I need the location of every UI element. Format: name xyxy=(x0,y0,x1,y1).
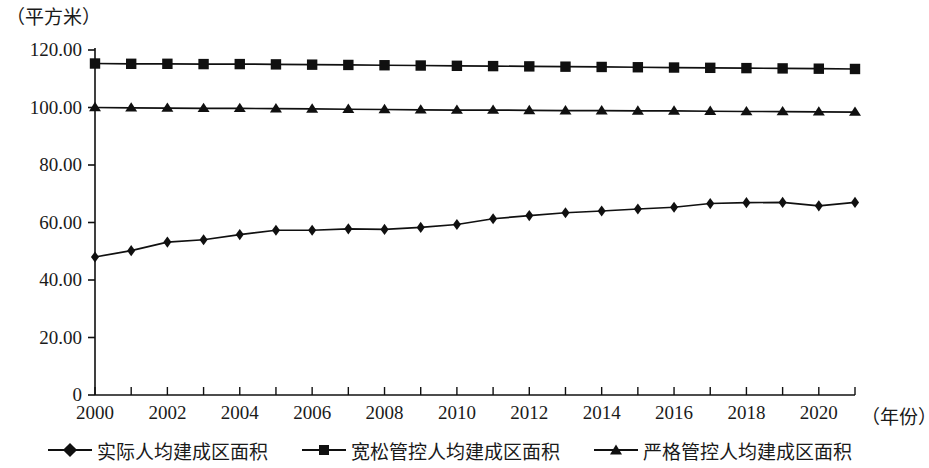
marker-triangle xyxy=(451,104,463,113)
marker-diamond xyxy=(851,197,859,208)
marker-diamond xyxy=(91,251,99,262)
marker-diamond xyxy=(272,225,280,236)
marker-triangle xyxy=(704,106,716,115)
series-line-0 xyxy=(95,202,855,257)
marker-diamond xyxy=(380,224,388,235)
marker-square xyxy=(343,60,353,70)
y-axis-tick-label: 40.00 xyxy=(0,269,82,291)
marker-triangle xyxy=(379,104,391,113)
series-line-1 xyxy=(95,64,855,69)
y-axis-tick-label: 20.00 xyxy=(0,327,82,349)
marker-square xyxy=(524,61,534,71)
x-axis-tick-label: 2000 xyxy=(76,402,114,424)
marker-square xyxy=(271,59,281,69)
marker-diamond xyxy=(200,234,208,245)
y-axis-tick-label: 80.00 xyxy=(0,154,82,176)
marker-diamond xyxy=(815,200,823,211)
marker-diamond xyxy=(453,219,461,230)
marker-triangle xyxy=(487,104,499,113)
marker-triangle xyxy=(161,102,173,111)
marker-diamond xyxy=(742,197,750,208)
x-axis-tick-label: 2006 xyxy=(293,402,331,424)
marker-triangle xyxy=(559,105,571,114)
marker-square xyxy=(307,59,317,69)
marker-square xyxy=(488,61,498,71)
marker-triangle xyxy=(306,103,318,112)
marker-square xyxy=(416,60,426,70)
marker-triangle xyxy=(342,104,354,113)
series-layer xyxy=(89,58,861,262)
marker-triangle xyxy=(668,105,680,114)
marker-diamond xyxy=(598,205,606,216)
marker-square xyxy=(235,59,245,69)
marker-triangle xyxy=(740,106,752,115)
legend-marker-diamond-icon xyxy=(48,442,92,458)
legend-marker-square-icon xyxy=(302,442,346,458)
marker-square xyxy=(814,63,824,73)
marker-diamond xyxy=(489,213,497,224)
marker-triangle xyxy=(415,104,427,113)
y-axis-tick-label: 100.00 xyxy=(0,97,82,119)
legend-marker-triangle-icon xyxy=(594,442,638,458)
x-axis-tick-label: 2002 xyxy=(148,402,186,424)
marker-triangle xyxy=(813,106,825,115)
y-axis-tick-label: 60.00 xyxy=(0,212,82,234)
legend-marker-glyph xyxy=(319,445,329,455)
legend-marker-glyph xyxy=(63,443,77,457)
marker-square xyxy=(705,63,715,73)
marker-diamond xyxy=(779,197,787,208)
y-axis-tick-label: 0 xyxy=(0,384,82,406)
marker-square xyxy=(596,62,606,72)
legend-item[interactable]: 实际人均建成区面积 xyxy=(48,437,268,464)
marker-triangle xyxy=(523,105,535,114)
x-axis-tick-label: 2020 xyxy=(800,402,838,424)
legend-item-label: 严格管控人均建成区面积 xyxy=(643,437,852,464)
legend-item[interactable]: 宽松管控人均建成区面积 xyxy=(302,437,560,464)
legend-marker-glyph xyxy=(610,445,622,455)
plot-area xyxy=(0,0,900,432)
x-axis-tick-label: 2010 xyxy=(438,402,476,424)
marker-square xyxy=(669,62,679,72)
x-axis-tick-label: 2008 xyxy=(366,402,404,424)
marker-triangle xyxy=(849,106,861,115)
marker-diamond xyxy=(670,202,678,213)
x-axis-name-label: （年份） xyxy=(861,402,929,429)
marker-diamond xyxy=(308,225,316,236)
marker-triangle xyxy=(198,103,210,112)
marker-diamond xyxy=(163,236,171,247)
marker-square xyxy=(850,64,860,74)
y-axis-tick-label: 120.00 xyxy=(0,39,82,61)
marker-diamond xyxy=(236,229,244,240)
marker-triangle xyxy=(632,105,644,114)
legend-item-label: 实际人均建成区面积 xyxy=(97,437,268,464)
marker-square xyxy=(741,63,751,73)
marker-diamond xyxy=(417,222,425,233)
x-axis-tick-label: 2014 xyxy=(583,402,621,424)
marker-square xyxy=(633,62,643,72)
marker-diamond xyxy=(525,210,533,221)
marker-square xyxy=(126,59,136,69)
x-axis-tick-label: 2004 xyxy=(221,402,259,424)
legend-item[interactable]: 严格管控人均建成区面积 xyxy=(594,437,852,464)
marker-square xyxy=(379,60,389,70)
marker-square xyxy=(198,59,208,69)
marker-triangle xyxy=(234,103,246,112)
x-axis-tick-label: 2012 xyxy=(510,402,548,424)
marker-square xyxy=(560,61,570,71)
marker-diamond xyxy=(344,223,352,234)
marker-diamond xyxy=(634,203,642,214)
marker-square xyxy=(777,63,787,73)
chart-legend: 实际人均建成区面积宽松管控人均建成区面积严格管控人均建成区面积 xyxy=(0,432,900,468)
x-axis-tick-label: 2016 xyxy=(655,402,693,424)
marker-triangle xyxy=(777,106,789,115)
marker-triangle xyxy=(89,102,101,111)
marker-diamond xyxy=(706,198,714,209)
marker-square xyxy=(90,58,100,68)
marker-diamond xyxy=(561,207,569,218)
marker-square xyxy=(452,61,462,71)
marker-triangle xyxy=(596,105,608,114)
marker-diamond xyxy=(127,245,135,256)
marker-triangle xyxy=(125,102,137,111)
marker-square xyxy=(162,59,172,69)
